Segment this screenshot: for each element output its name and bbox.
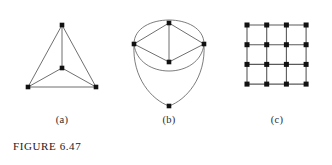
grid-vertex — [284, 23, 289, 28]
grid-vertex — [284, 82, 289, 87]
vertex-bottom-left — [26, 85, 31, 90]
vertex-apex — [60, 23, 65, 28]
grid-vertex — [245, 23, 250, 28]
grid-vertex — [284, 42, 289, 47]
grid-vertex — [245, 42, 250, 47]
grid-vertex — [304, 42, 309, 47]
vertex-left — [132, 42, 137, 47]
edge-left-top — [134, 23, 169, 44]
grid-vertex — [264, 62, 269, 67]
figure-caption: FIGURE 6.47 — [13, 140, 81, 152]
edge-innerbottom-right — [169, 44, 204, 62]
vertex-top — [167, 21, 172, 26]
grid-vertex — [245, 62, 250, 67]
grid-vertex — [264, 42, 269, 47]
panel-c-sublabel: (c) — [257, 114, 297, 125]
grid-vertex — [264, 23, 269, 28]
edge-top-right — [169, 23, 204, 44]
vertex-inner-bottom — [167, 60, 172, 65]
figure-container: (a) (b) (c) FIGURE 6.47 — [0, 0, 332, 165]
panel-b-graph — [132, 20, 207, 108]
grid-vertex — [304, 62, 309, 67]
grid-vertex — [304, 23, 309, 28]
grid-vertex — [264, 82, 269, 87]
panel-b-sublabel: (b) — [149, 114, 189, 125]
vertex-bottom — [167, 104, 172, 109]
grid-vertex — [245, 82, 250, 87]
panel-c-grid-graph — [245, 23, 309, 87]
grid-vertex — [304, 82, 309, 87]
vertex-bottom-right — [94, 85, 99, 90]
panel-a-sublabel: (a) — [42, 114, 82, 125]
edge-left-innerbottom — [134, 44, 169, 62]
vertex-right — [202, 42, 207, 47]
grid-vertex — [284, 62, 289, 67]
vertex-center — [60, 66, 65, 71]
panel-a-graph — [26, 23, 99, 90]
